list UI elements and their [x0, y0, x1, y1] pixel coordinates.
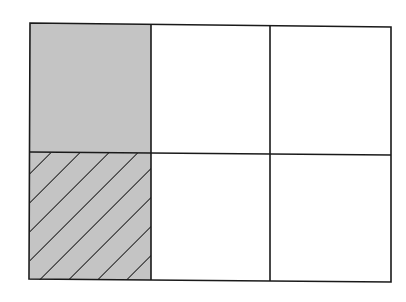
fraction-grid-diagram: [0, 0, 406, 302]
cell-r1-c1-shaded: [30, 24, 151, 153]
cell-r1-c3: [270, 26, 391, 154]
cell-r2-c2: [151, 153, 270, 281]
cell-r2-c3: [270, 154, 391, 281]
cell-r1-c2: [151, 25, 270, 153]
cell-r2-c1-hatched: [30, 153, 151, 280]
